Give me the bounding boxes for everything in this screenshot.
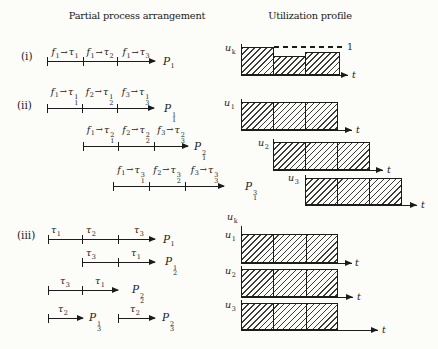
tick-mark (48, 286, 49, 295)
timeline-p1-3: f1→τ31 f2→τ32 f3→τ33 P31 (113, 186, 224, 187)
supsub: 21 (202, 151, 206, 162)
mapsto-arrow-icon: → (200, 164, 207, 174)
axis-arrowhead-icon (410, 202, 417, 208)
axis-label-u1: u1 (225, 229, 236, 242)
utilization-box (241, 303, 338, 330)
cell-divider (305, 143, 306, 169)
mapsto-arrow-icon: → (166, 124, 173, 134)
utilization-box (305, 178, 402, 205)
arrowhead-icon (112, 287, 119, 293)
cell-divider (273, 304, 274, 329)
axis-arrowhead-icon (371, 327, 378, 333)
time-axis (273, 170, 383, 171)
supsub: 23 (170, 322, 174, 333)
tick-mark (82, 286, 83, 295)
process-scheduling-figure: Partial process arrangement Utilization … (0, 0, 438, 349)
axis-label-uk: uk (225, 42, 236, 55)
utilization-box (241, 102, 338, 130)
process-label: P13 (89, 312, 101, 333)
axis-label-u1: u1 (224, 97, 235, 110)
cell-divider (337, 143, 338, 169)
supsub: 22 (140, 294, 144, 305)
cell-divider (306, 270, 307, 296)
cell-divider (273, 103, 274, 129)
t-label: t (356, 124, 360, 135)
segment-label: τ3 (60, 276, 70, 288)
segment-label: f2→τ22 (118, 125, 154, 145)
segment-label: f2→τ32 (149, 165, 185, 185)
t-label: t (387, 164, 391, 175)
timeline-p1-2: f1→τ21 f2→τ22 f3→τ23 P21 (83, 146, 188, 147)
cell-divider (306, 235, 307, 262)
timeline-p1: f1→τ1 f1→τ2 f1→τ3 P1 (47, 61, 155, 62)
tick-mark (118, 314, 119, 323)
process-label: P31 (245, 181, 257, 202)
segment-label: f1→τ2 (83, 47, 117, 59)
axis-label-uk-iii: uk (227, 211, 238, 224)
utilization-box (241, 269, 338, 297)
utilization-header: Utilization profile (250, 10, 370, 21)
segment-label: τ1 (131, 248, 141, 260)
supsub: 13 (145, 95, 149, 106)
axis-label-u2: u2 (258, 137, 269, 150)
mapsto-arrow-icon: → (60, 86, 67, 96)
t-label: t (355, 257, 359, 268)
process-label: P1 (163, 234, 175, 247)
cell-divider (306, 304, 307, 329)
segment-label: f2→τ12 (82, 87, 117, 107)
t-label: t (421, 199, 425, 210)
supsub: 11 (172, 113, 176, 124)
time-axis (241, 75, 348, 76)
utilization-box (241, 47, 274, 75)
segment-label: τ1 (95, 276, 105, 288)
tick-mark (48, 235, 49, 244)
segment-label: τ2 (86, 225, 96, 237)
segment-label: τ3 (134, 225, 144, 237)
mapsto-arrow-icon: → (126, 164, 133, 174)
mapsto-arrow-icon: → (96, 47, 103, 57)
process-label: P22 (132, 284, 144, 305)
mapsto-arrow-icon: → (96, 124, 103, 134)
unity-dashed-line (274, 46, 345, 48)
axis-arrowhead-icon (345, 260, 352, 266)
utilization-box (305, 52, 340, 75)
segment-label: f1→τ21 (83, 125, 118, 145)
row-label-i: (i) (21, 50, 33, 62)
tick-mark (82, 235, 83, 244)
axis-arrowhead-icon (345, 127, 352, 133)
cell-divider (305, 103, 306, 129)
tick-mark (82, 258, 83, 267)
time-axis (241, 263, 352, 264)
segment-label: τ3 (86, 248, 96, 260)
t-label: t (352, 69, 356, 80)
supsub: 12 (173, 266, 177, 277)
arrowhead-icon (149, 315, 156, 321)
tick-mark (118, 235, 119, 244)
supsub: 23 (181, 133, 185, 144)
utilization-box (241, 234, 338, 263)
timeline-p3-2: τ2 P23 (118, 318, 155, 319)
arrowhead-icon (149, 259, 156, 265)
supsub: 31 (253, 191, 257, 202)
segment-label: τ1 (51, 225, 61, 237)
process-label: P12 (165, 256, 177, 277)
utilization-box (273, 142, 370, 170)
axis-arrowhead-icon (346, 294, 353, 300)
axis-arrowhead-icon (341, 72, 348, 78)
supsub: 31 (141, 173, 145, 184)
mapsto-arrow-icon: → (132, 47, 139, 57)
timeline-p3-1: τ2 P13 (48, 318, 83, 319)
axis-label-u3: u3 (288, 172, 299, 185)
segment-label: f1→τ3 (117, 47, 155, 59)
supsub: 13 (97, 322, 101, 333)
cell-divider (369, 179, 370, 204)
time-axis (241, 297, 353, 298)
mapsto-arrow-icon: → (131, 86, 138, 96)
cell-divider (273, 235, 274, 262)
t-label: t (382, 324, 386, 335)
timeline-p2-2: τ3 τ1 P22 (48, 290, 118, 291)
timeline-p1-1: f1→τ11 f2→τ12 f3→τ13 P11 (47, 108, 154, 109)
axis-arrowhead-icon (376, 167, 383, 173)
axis-label-u2: u2 (225, 265, 236, 278)
process-label: P11 (164, 103, 176, 124)
